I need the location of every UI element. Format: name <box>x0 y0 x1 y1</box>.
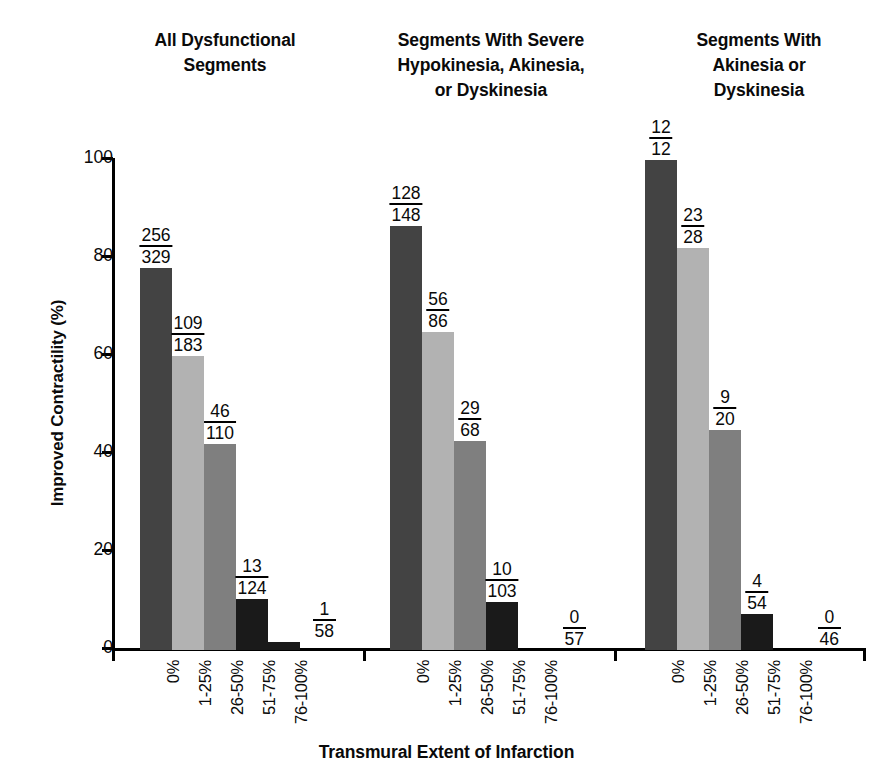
panel-title-line: Akinesia or <box>650 53 868 78</box>
fraction-denominator: 148 <box>389 206 422 225</box>
fraction-numerator: 109 <box>171 314 204 335</box>
figure-bar-chart: All Dysfunctional Segments Segments With… <box>0 0 893 776</box>
x-axis-tick-start <box>112 648 115 661</box>
y-axis-tick-label: 20 <box>67 539 113 560</box>
x-axis-tick-label: 76-100% <box>292 660 311 724</box>
x-axis-tick-label: 26-50% <box>478 660 497 715</box>
bar-group: 10103 <box>486 158 518 650</box>
panel-title-severe-hypokinesia: Segments With Severe Hypokinesia, Akines… <box>360 28 622 103</box>
bar <box>268 642 300 650</box>
bar-fraction-label: 5686 <box>426 290 449 332</box>
panel-title-line: Segments <box>116 53 334 78</box>
x-axis-tick-label: 0% <box>414 660 433 683</box>
y-axis-tick-label: 0 <box>67 637 113 658</box>
x-axis-tick-label: 0% <box>164 660 183 683</box>
bar-fraction-label: 046 <box>818 608 841 650</box>
bar-group: 2328 <box>677 158 709 650</box>
panel-title-line: Segments With Severe <box>360 28 622 53</box>
bar <box>709 430 741 651</box>
bar <box>677 248 709 650</box>
y-axis-tick-label: 40 <box>67 441 113 462</box>
panel-title-line: Hypokinesia, Akinesia, <box>360 53 622 78</box>
bar-group: 454 <box>741 158 773 650</box>
bar-group: 256329 <box>140 158 172 650</box>
fraction-denominator: 46 <box>818 630 841 649</box>
x-axis-tick-label: 1-25% <box>701 660 720 706</box>
x-axis-tick-label: 51-75% <box>510 660 529 715</box>
x-axis-tick-end <box>863 648 866 661</box>
fraction-denominator: 183 <box>171 336 204 355</box>
bar <box>422 332 454 651</box>
bar-group: 057 <box>518 158 550 650</box>
bar-fraction-label: 920 <box>713 388 736 430</box>
bar-fraction-label: 10103 <box>485 560 518 602</box>
bar-group: 2968 <box>454 158 486 650</box>
bar-fraction-label: 128148 <box>389 184 422 226</box>
fraction-numerator: 9 <box>713 388 736 409</box>
panel-title-line: All Dysfunctional <box>116 28 334 53</box>
y-axis-tick-label: 60 <box>67 343 113 364</box>
fraction-numerator: 13 <box>235 557 268 578</box>
fraction-numerator: 0 <box>563 608 586 629</box>
x-axis-tick-label: 1-25% <box>446 660 465 706</box>
x-axis-tick-label: 26-50% <box>733 660 752 715</box>
bar-group: 158 <box>268 158 300 650</box>
bar <box>204 444 236 650</box>
fraction-numerator: 4 <box>745 572 768 593</box>
fraction-numerator: 56 <box>426 290 449 311</box>
x-axis-tick-label: 26-50% <box>228 660 247 715</box>
x-axis-tick-label: 51-75% <box>765 660 784 715</box>
fraction-denominator: 68 <box>458 421 481 440</box>
x-axis-tick-panel-1-2 <box>363 648 366 661</box>
bar-fraction-label: 2968 <box>458 399 481 441</box>
y-axis-line <box>112 158 115 650</box>
fraction-numerator: 23 <box>681 206 704 227</box>
bar <box>172 356 204 650</box>
panel-title-akinesia-or-dyskinesia: Segments With Akinesia or Dyskinesia <box>650 28 868 103</box>
bar <box>486 602 518 650</box>
fraction-denominator: 54 <box>745 594 768 613</box>
x-axis-tick-label: 51-75% <box>260 660 279 715</box>
bar-group: 46110 <box>204 158 236 650</box>
bar-fraction-label: 109183 <box>171 314 204 356</box>
x-axis-tick-label: 76-100% <box>797 660 816 724</box>
x-axis-tick-panel-2-3 <box>614 648 617 661</box>
fraction-numerator: 1 <box>313 600 336 621</box>
panel-title-line: or Dyskinesia <box>360 78 622 103</box>
fraction-numerator: 0 <box>818 608 841 629</box>
x-axis-tick-label: 1-25% <box>196 660 215 706</box>
bar-group: 046 <box>773 158 805 650</box>
fraction-numerator: 10 <box>485 560 518 581</box>
panel-title-line: Dyskinesia <box>650 78 868 103</box>
panel-title-all-dysfunctional-segments: All Dysfunctional Segments <box>116 28 334 78</box>
bar-group: 5686 <box>422 158 454 650</box>
fraction-denominator: 103 <box>485 582 518 601</box>
bar <box>645 160 677 650</box>
bar-group: 1212 <box>645 158 677 650</box>
y-axis-tick-label: 100 <box>67 147 113 168</box>
bar-fraction-label: 1212 <box>649 118 672 160</box>
x-axis-tick-label: 76-100% <box>542 660 561 724</box>
bar-fraction-label: 057 <box>563 608 586 650</box>
bar <box>390 226 422 650</box>
x-axis-tick-label: 0% <box>669 660 688 683</box>
fraction-numerator: 29 <box>458 399 481 420</box>
bar <box>236 599 268 650</box>
bar-fraction-label: 13124 <box>235 557 268 599</box>
fraction-denominator: 58 <box>313 622 336 641</box>
panel-title-line: Segments With <box>650 28 868 53</box>
fraction-denominator: 57 <box>563 630 586 649</box>
bar-group: 920 <box>709 158 741 650</box>
bar-fraction-label: 46110 <box>204 402 236 444</box>
fraction-denominator: 20 <box>713 410 736 429</box>
bar <box>741 614 773 650</box>
bar <box>140 268 172 650</box>
fraction-denominator: 86 <box>426 312 449 331</box>
fraction-numerator: 256 <box>139 226 172 247</box>
fraction-numerator: 46 <box>204 402 236 423</box>
bar-group: 109183 <box>172 158 204 650</box>
bar <box>454 441 486 650</box>
bar-fraction-label: 256329 <box>139 226 172 268</box>
fraction-numerator: 128 <box>389 184 422 205</box>
fraction-denominator: 329 <box>139 248 172 267</box>
